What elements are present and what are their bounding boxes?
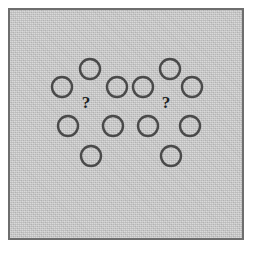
inducer-circle-left-cluster-upper-left [52, 77, 72, 97]
inducer-circle-right-cluster-lower-left [138, 116, 158, 136]
inducer-circle-left-cluster-lower-right [103, 116, 123, 136]
left-cluster: ? [52, 59, 127, 166]
inducer-circle-right-cluster-upper-left [133, 77, 153, 97]
inducer-circle-left-cluster-lower-left [58, 116, 78, 136]
right-cluster: ? [133, 59, 202, 166]
inducer-circle-right-cluster-bottom [161, 146, 181, 166]
inducer-circle-left-cluster-top [80, 59, 100, 79]
stimulus-canvas: ?? [10, 10, 242, 238]
inducer-circle-right-cluster-lower-right [180, 116, 200, 136]
probe-question-mark-left-cluster: ? [82, 93, 91, 112]
inducer-circle-left-cluster-upper-right [107, 77, 127, 97]
inducer-circle-left-cluster-bottom [81, 146, 101, 166]
stimulus-panel: ?? [8, 8, 244, 240]
probe-question-mark-right-cluster: ? [162, 93, 171, 112]
figure-root: ?? [0, 0, 255, 255]
clusters-layer: ?? [52, 59, 202, 166]
inducer-circle-right-cluster-top [160, 59, 180, 79]
inducer-circle-right-cluster-upper-right [182, 77, 202, 97]
